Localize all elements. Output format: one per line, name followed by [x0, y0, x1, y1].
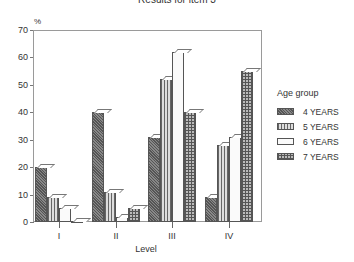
- bar: [184, 112, 196, 222]
- bar: [92, 112, 104, 222]
- bar: [160, 79, 172, 222]
- chart-title: Results for item 3: [0, 0, 354, 5]
- legend-swatch-icon: [277, 153, 294, 160]
- x-tick-mark: [172, 222, 173, 228]
- x-tick-mark: [59, 222, 60, 228]
- bar: [172, 52, 184, 222]
- y-tick-label: 40: [0, 107, 28, 117]
- y-tick-label: 50: [0, 80, 28, 90]
- legend-swatch-icon: [277, 108, 294, 115]
- bar: [116, 217, 128, 222]
- y-tick-label: 70: [0, 25, 28, 35]
- legend-item: 6 YEARS: [277, 134, 339, 149]
- x-axis-title: Level: [135, 244, 157, 254]
- y-tick-label: 60: [0, 52, 28, 62]
- y-axis-unit: %: [34, 17, 41, 26]
- x-tick-mark: [116, 222, 117, 228]
- legend-label: 7 YEARS: [303, 152, 339, 162]
- x-tick-mark: [229, 222, 230, 228]
- legend-item: 4 YEARS: [277, 104, 339, 119]
- legend-items: 4 YEARS5 YEARS6 YEARS7 YEARS: [277, 104, 339, 164]
- y-tick-label: 10: [0, 190, 28, 200]
- bar: [71, 221, 83, 223]
- legend-swatch-icon: [277, 123, 294, 130]
- bar: [241, 71, 253, 222]
- x-tick-label: IV: [225, 231, 234, 241]
- y-tick-label: 20: [0, 162, 28, 172]
- legend-label: 4 YEARS: [303, 107, 339, 117]
- bar: [104, 192, 116, 222]
- legend-label: 6 YEARS: [303, 137, 339, 147]
- y-tick-label: 30: [0, 135, 28, 145]
- legend-swatch-icon: [277, 138, 294, 145]
- bar: [47, 197, 59, 222]
- x-tick-label: II: [113, 231, 118, 241]
- bar: [128, 208, 140, 222]
- legend-title: Age group: [277, 88, 339, 98]
- x-tick-label: I: [58, 231, 61, 241]
- x-tick-label: III: [168, 231, 176, 241]
- bar: [59, 208, 71, 222]
- bar: [205, 197, 217, 222]
- bar: [217, 145, 229, 222]
- legend-label: 5 YEARS: [303, 122, 339, 132]
- legend-item: 7 YEARS: [277, 149, 339, 164]
- y-tick-mark: [30, 222, 34, 223]
- bar: [229, 137, 241, 222]
- legend-item: 5 YEARS: [277, 119, 339, 134]
- bar: [148, 137, 160, 222]
- y-tick-label: 0: [0, 217, 28, 227]
- legend: Age group 4 YEARS5 YEARS6 YEARS7 YEARS: [277, 88, 339, 164]
- bar: [35, 167, 47, 222]
